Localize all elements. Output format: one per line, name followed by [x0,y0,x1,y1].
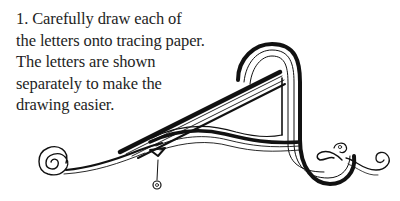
decorative-letter-a-illustration [0,0,400,201]
drop-pendant-icon [153,160,161,189]
left-spiral-flourish-icon [39,147,68,175]
